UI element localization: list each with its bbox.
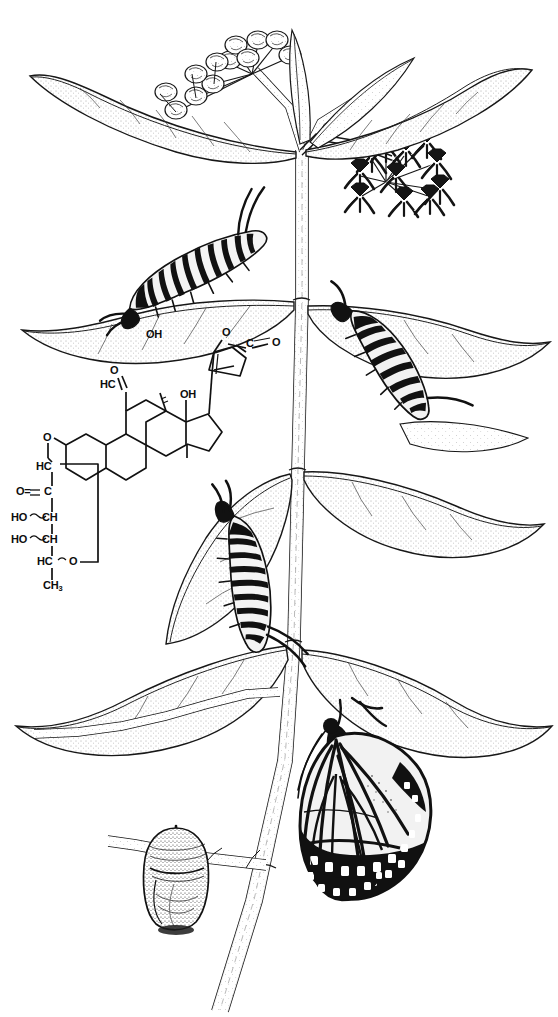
chem-label-oh-c14: OH <box>180 389 196 400</box>
chem-label-o-sugar-keto: O= <box>16 486 31 497</box>
chem-label-ho-sugar-2: HO <box>11 534 27 545</box>
chem-label-ch-sugar-2: CH <box>42 534 58 545</box>
chem-label-oh-c11: OH <box>146 329 162 340</box>
chem-label-hc-sugar-1: HC <box>36 461 52 472</box>
chem-label-ch3-sugar: CH3 <box>43 580 62 593</box>
chem-label-o-glycosidic: O <box>43 432 51 443</box>
chem-label-ho-sugar-1: HO <box>11 512 27 523</box>
chem-label-o-aldehyde: O <box>110 365 118 376</box>
chem-label-hc-sugar-2: HC <box>37 556 53 567</box>
illustration-plate: OH O HC OH O C O O HC O= C HO CH HO CH H… <box>0 0 558 1017</box>
chem-label-ch-sugar-1: CH <box>42 512 58 523</box>
chem-label-hc-aldehyde: HC <box>100 379 116 390</box>
chem-label-o-lactone-carbonyl: O <box>272 337 280 348</box>
botanical-illustration <box>0 0 558 1017</box>
chem-label-o-ring: O <box>69 556 77 567</box>
chem-label-o-lactone: O <box>222 327 230 338</box>
chrysalis <box>144 826 209 935</box>
chem-label-c-lactone: C <box>246 338 254 349</box>
chem-label-c-sugar-keto: C <box>44 486 52 497</box>
